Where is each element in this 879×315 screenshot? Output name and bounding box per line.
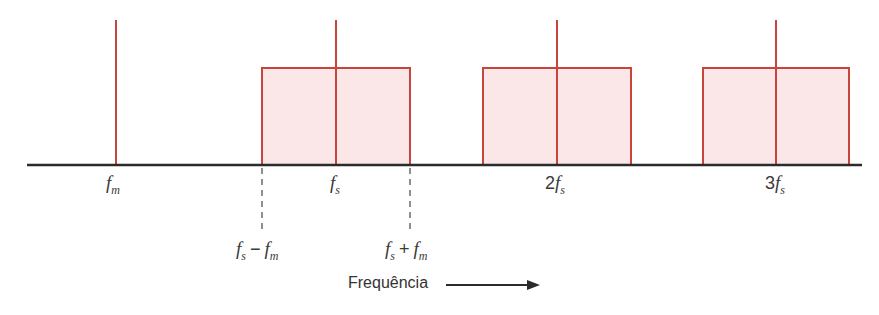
label-fs: fs	[330, 172, 340, 194]
label-2fs: 2fs	[545, 172, 565, 194]
axis-label-frequencia: Frequência	[348, 274, 428, 292]
label-2fs-coef: 2	[545, 173, 555, 193]
label-fm-sub: m	[111, 183, 120, 197]
plus-operator: +	[399, 239, 410, 259]
minus-operator: −	[250, 239, 261, 259]
lbl-a-sub: s	[390, 249, 395, 263]
label-2fs-sub: s	[560, 183, 565, 197]
lbl-b-sub: m	[419, 249, 428, 263]
label-fm: fm	[106, 172, 120, 194]
label-fs-minus-fm: fs−fm	[236, 238, 278, 260]
lbl-b-base: f	[413, 238, 418, 259]
label-3fs-coef: 3	[765, 173, 775, 193]
arrow-head-icon	[527, 280, 540, 290]
lbl-b-base: f	[264, 238, 269, 259]
label-3fs-sub: s	[780, 183, 785, 197]
label-3fs: 3fs	[765, 172, 785, 194]
lbl-b-sub: m	[270, 249, 279, 263]
spectrum-diagram	[0, 0, 879, 315]
lbl-a-sub: s	[241, 249, 246, 263]
label-fs-sub: s	[335, 183, 340, 197]
label-fs-plus-fm: fs+fm	[385, 238, 427, 260]
